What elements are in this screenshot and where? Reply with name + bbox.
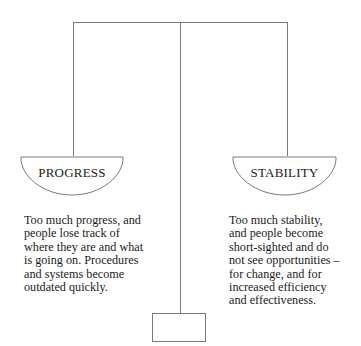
progress-label: PROGRESS [21, 165, 123, 181]
scale-base [153, 314, 206, 342]
stability-label: STABILITY [233, 165, 336, 181]
progress-description: Too much progress, and people lose track… [24, 214, 174, 294]
stability-description: Too much stability, and people become sh… [229, 214, 359, 308]
